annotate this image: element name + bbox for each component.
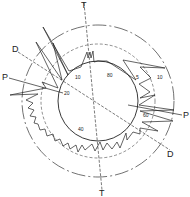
ring-label-10-right: 10 bbox=[157, 74, 163, 80]
t-label-bottom: T bbox=[99, 188, 105, 197]
outer-circle bbox=[22, 25, 174, 177]
p-label-left: P bbox=[2, 72, 8, 82]
ring-label-10-left: 10 bbox=[75, 74, 81, 80]
d-label-left: D bbox=[12, 44, 19, 54]
d-label-right: D bbox=[167, 149, 174, 159]
ring-label-40: 40 bbox=[78, 126, 84, 132]
ring-label-80: 80 bbox=[107, 72, 113, 78]
p-label-right: P bbox=[183, 110, 189, 120]
p-axis-left bbox=[9, 78, 63, 93]
ring-label-5: 5 bbox=[136, 74, 139, 80]
orientation-diagram: T T D D P P 10 80 20 5 10 60 40 bbox=[0, 0, 190, 197]
inner-circle bbox=[58, 61, 138, 141]
t-label-top: T bbox=[81, 0, 87, 10]
d-axis bbox=[18, 52, 170, 150]
ring-label-20: 20 bbox=[64, 90, 70, 96]
rose-outline bbox=[10, 27, 174, 152]
ring-label-60: 60 bbox=[143, 112, 149, 118]
